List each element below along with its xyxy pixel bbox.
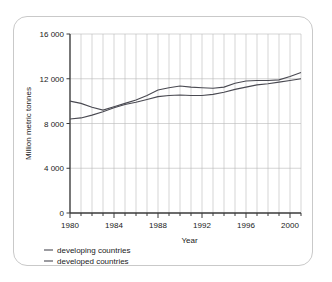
y-tick-label-16000: 16 000 [40,30,65,39]
x-tick-label-1988: 1988 [149,221,167,230]
horizontal-gridlines [70,34,301,168]
series-line-developed-countries [70,73,301,110]
chart-card: 04 0008 00012 00016 000 1980198419881992… [13,16,313,266]
x-tick-label-1996: 1996 [237,221,255,230]
x-axis-title: Year [181,236,198,245]
y-tick-label-12000: 12 000 [40,75,65,84]
line-chart: 04 0008 00012 00016 000 1980198419881992… [14,17,314,267]
y-tick-label-0: 0 [60,209,65,218]
legend-label-developed-countries: developed countries [57,257,129,266]
legend-label-developing-countries: developing countries [57,246,130,255]
series-line-developing-countries [70,79,301,119]
x-axis-ticks [70,213,301,218]
y-axis-tick-labels: 04 0008 00012 00016 000 [40,30,65,218]
y-axis-title: Million metric tonnes [24,87,33,160]
y-tick-label-8000: 8 000 [44,120,65,129]
x-tick-label-1980: 1980 [61,221,79,230]
x-tick-label-1992: 1992 [193,221,211,230]
x-axis-tick-labels: 198019841988199219962000 [61,221,299,230]
y-tick-label-4000: 4 000 [44,164,65,173]
x-tick-label-2000: 2000 [281,221,299,230]
chart-legend: developing countriesdeveloped countries [44,246,130,266]
data-series-group [70,73,301,119]
x-tick-label-1984: 1984 [105,221,123,230]
